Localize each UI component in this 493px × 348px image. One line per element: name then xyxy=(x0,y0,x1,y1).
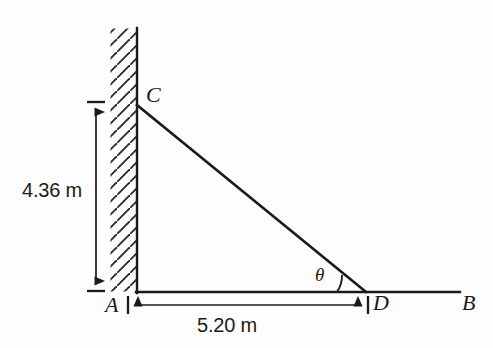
point-label-A: A xyxy=(105,294,118,316)
hypotenuse-line-CD xyxy=(137,105,366,292)
wall-hatching xyxy=(111,29,138,292)
horizontal-dimension-label: 5.20 m xyxy=(197,315,257,335)
geometry-figure xyxy=(0,0,493,348)
point-label-C: C xyxy=(146,84,161,106)
point-label-B: B xyxy=(462,292,475,314)
angle-label-theta: θ xyxy=(315,265,324,284)
angle-arc-theta xyxy=(337,275,342,292)
point-label-D: D xyxy=(373,292,389,314)
vertical-dimension-label: 4.36 m xyxy=(22,180,82,200)
diagram-canvas: C A D B 4.36 m 5.20 m θ xyxy=(0,0,493,348)
